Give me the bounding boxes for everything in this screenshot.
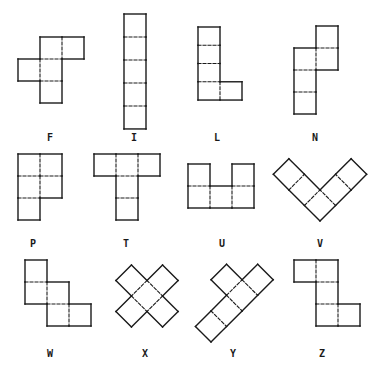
- pentomino-label-y: Y: [230, 349, 236, 359]
- pentomino-n: [294, 26, 338, 114]
- pentomino-label-w: W: [47, 349, 53, 359]
- pentomino-label-u: U: [219, 239, 225, 249]
- pentomino-label-l: L: [214, 133, 220, 143]
- pentomino-label-z: Z: [319, 349, 325, 359]
- pentomino-t: [94, 154, 160, 220]
- pentomino-l: [198, 27, 242, 100]
- pentomino-x: [100, 249, 193, 342]
- pentomino-v: [273, 128, 366, 221]
- pentomino-i: [124, 14, 146, 129]
- pentomino-label-t: T: [123, 239, 129, 249]
- pentomino-u: [188, 164, 254, 208]
- pentomino-label-v: V: [317, 239, 323, 249]
- pentomino-f: [18, 37, 84, 103]
- pentomino-label-n: N: [312, 133, 318, 143]
- pentomino-label-p: P: [30, 239, 36, 249]
- pentomino-label-f: F: [47, 133, 53, 143]
- pentomino-y: [180, 249, 273, 342]
- pentomino-label-i: I: [131, 133, 137, 143]
- pentomino-z: [294, 260, 360, 326]
- pentomino-label-x: X: [142, 349, 148, 359]
- pentomino-p: [18, 154, 62, 220]
- pentomino-w: [25, 260, 91, 326]
- pentomino-diagram: [0, 0, 383, 376]
